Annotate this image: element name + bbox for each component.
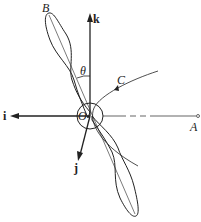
label-o: O [78,109,87,123]
label-c: C [117,73,126,87]
label-b: B [42,1,50,15]
label-j: j [73,161,78,175]
j-axis-arrowhead-icon [77,151,83,161]
propeller-diagram: B C θ O A i j k [0,0,201,222]
point-a-marker [197,115,200,118]
label-i: i [3,109,7,123]
i-axis-arrowhead-icon [10,113,19,119]
blade-centerline [49,15,135,214]
label-k: k [93,12,100,26]
label-theta: θ [80,64,86,78]
label-a: A [189,120,198,134]
propeller [45,13,138,216]
